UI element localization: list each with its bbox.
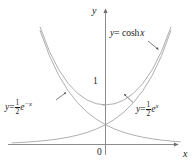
- curve-half-exp-pos: [12, 31, 171, 143]
- label-cosh: y= cosh x: [110, 29, 144, 39]
- label-cosh-eq: = cosh: [114, 28, 139, 38]
- label-half-exp-neg-exponent: −x: [25, 100, 32, 107]
- label-half-exp-pos-eq: =: [140, 104, 145, 114]
- origin-label: 0: [97, 148, 102, 158]
- curve-half-exp-neg: [40, 31, 180, 142]
- hyperbolic-cosine-figure: y x 1 0 y= cosh x y=12e−x y=12ex: [0, 0, 195, 163]
- leader-half-exp-pos: [124, 94, 133, 103]
- label-half-exp-neg-eq: =: [9, 102, 14, 112]
- y-tick-label-one: 1: [93, 77, 98, 87]
- label-half-exp-pos: y=12ex: [136, 101, 158, 117]
- label-half-exp-neg: y=12e−x: [5, 99, 32, 115]
- label-half-exp-pos-exponent: x: [156, 102, 159, 109]
- leader-half-exp-neg: [56, 93, 66, 101]
- y-axis-label: y: [92, 6, 96, 16]
- label-cosh-arg: x: [140, 28, 144, 38]
- leader-cosh: [148, 41, 159, 50]
- x-axis-label: x: [183, 149, 187, 159]
